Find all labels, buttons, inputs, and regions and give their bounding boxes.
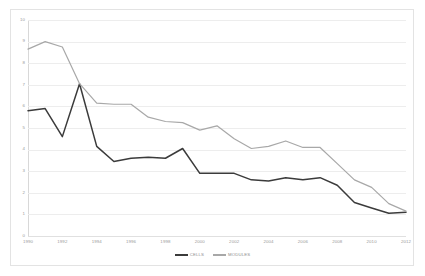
x-axis-tick-label: 1994 bbox=[92, 240, 102, 244]
x-axis-tick-label: 2000 bbox=[195, 240, 205, 244]
legend-label: MODULES bbox=[228, 253, 250, 257]
x-axis-tick-label: 1998 bbox=[160, 240, 170, 244]
y-axis-tick-label: 1 bbox=[9, 212, 25, 216]
legend-item-modules[interactable]: MODULES bbox=[213, 253, 250, 257]
series-line-modules bbox=[28, 42, 406, 212]
y-axis-tick-label: 3 bbox=[9, 169, 25, 173]
y-axis-tick-label: 10 bbox=[9, 18, 25, 22]
x-axis-tick-label: 1992 bbox=[57, 240, 67, 244]
y-axis-tick-label: 9 bbox=[9, 39, 25, 43]
series-line-cells bbox=[28, 84, 406, 214]
series-layer bbox=[28, 20, 406, 236]
x-axis-tick-label: 2002 bbox=[229, 240, 239, 244]
y-axis-tick-label: 4 bbox=[9, 147, 25, 151]
legend-item-cells[interactable]: CELLS bbox=[175, 253, 204, 257]
x-axis-tick-label: 1990 bbox=[23, 240, 33, 244]
y-axis-tick-label: 0 bbox=[9, 234, 25, 238]
x-axis-tick-label: 2008 bbox=[332, 240, 342, 244]
y-axis-tick-labels: 109876543210 bbox=[8, 20, 25, 236]
x-axis-tick-labels: 1990199219941996199820002002200420062008… bbox=[28, 240, 406, 250]
y-axis-tick-label: 7 bbox=[9, 83, 25, 87]
y-axis-tick-label: 8 bbox=[9, 61, 25, 65]
x-axis-tick-label: 2010 bbox=[367, 240, 377, 244]
x-axis-tick-label: 2004 bbox=[263, 240, 273, 244]
plot-area bbox=[28, 20, 406, 236]
gridline bbox=[28, 236, 406, 237]
x-axis-tick-label: 2006 bbox=[298, 240, 308, 244]
x-axis-tick-label: 2012 bbox=[401, 240, 411, 244]
legend-swatch-icon bbox=[213, 254, 226, 256]
y-axis-tick-label: 2 bbox=[9, 191, 25, 195]
chart-legend: CELLSMODULES bbox=[0, 253, 425, 257]
chart-figure: 109876543210 199019921994199619982000200… bbox=[0, 0, 425, 276]
y-axis-tick-label: 5 bbox=[9, 126, 25, 130]
legend-swatch-icon bbox=[175, 254, 188, 256]
x-axis-tick-label: 1996 bbox=[126, 240, 136, 244]
y-axis-tick-label: 6 bbox=[9, 104, 25, 108]
legend-label: CELLS bbox=[190, 253, 204, 257]
